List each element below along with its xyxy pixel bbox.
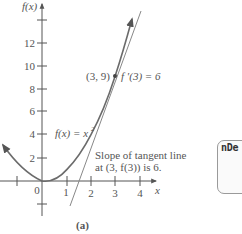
- x-tick-0: 0: [34, 184, 40, 196]
- curve-label-exponent: 2: [91, 125, 95, 133]
- tangent-line: [70, 11, 141, 206]
- slope-note-line1: Slope of tangent line: [95, 149, 186, 161]
- x-axis-label: x: [154, 184, 160, 196]
- y-axis-label: f(x): [22, 0, 38, 13]
- side-panel-box: nDe: [217, 140, 242, 194]
- derivative-label: f ′(3) = 6: [121, 70, 161, 83]
- x-tick-3: 3: [112, 187, 118, 199]
- point-label: (3, 9): [86, 70, 110, 83]
- x-tick-1: 1: [63, 186, 69, 198]
- y-tick-4: 4: [30, 128, 36, 140]
- y-tick-12: 12: [24, 37, 35, 49]
- x-tick-4: 4: [137, 187, 143, 199]
- x-tick-2: 2: [88, 187, 94, 199]
- curve-label: f(x) = x: [55, 127, 88, 140]
- side-panel-label: nDe: [221, 142, 238, 153]
- y-tick-10: 10: [24, 60, 36, 72]
- figure-caption: (a): [76, 219, 89, 232]
- y-tick-8: 8: [30, 83, 36, 95]
- y-tick-2: 2: [30, 152, 36, 164]
- y-tick-6: 6: [30, 105, 36, 117]
- slope-note-line2: at (3, f(3)) is 6.: [95, 161, 162, 174]
- tangent-point: [113, 74, 117, 78]
- tangent-line-chart: 12 10 8 6 4 2 0 1 2 3 4 f(x) x (3, 9) f …: [0, 0, 242, 234]
- y-tick-labels: 12 10 8 6 4 2: [24, 37, 36, 164]
- x-tick-labels: 0 1 2 3 4: [34, 184, 143, 199]
